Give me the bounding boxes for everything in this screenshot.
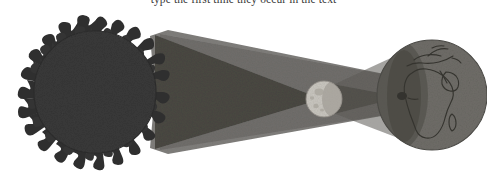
- eclipse-illustration: [0, 0, 487, 180]
- shadow-cone-group: [150, 30, 406, 154]
- sun-body-group: [18, 15, 170, 170]
- earth-body-group: [368, 40, 487, 150]
- solar-eclipse-figure: type the first time they occur in the te…: [0, 0, 487, 180]
- sun-disc: [34, 31, 156, 153]
